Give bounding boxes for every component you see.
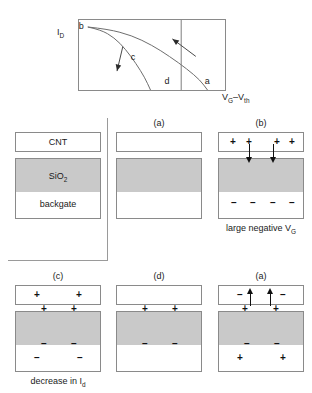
panel-b-top-oxide-layer bbox=[218, 158, 304, 192]
panel-c-bottom-title: (c) bbox=[15, 272, 101, 281]
panel-a-bottom-arrow-up-1 bbox=[270, 293, 271, 306]
panel-d-bottom-charge-plus-0: + bbox=[142, 304, 148, 314]
panel-b-top-charge-plus-0: + bbox=[230, 137, 236, 147]
panel-b-top-charge-minus-5: – bbox=[250, 198, 256, 208]
panel-a-top-oxide-layer bbox=[116, 158, 202, 192]
panel-c-bottom-charge-plus-2: + bbox=[41, 304, 47, 314]
legend-oxide-label: SiO2 bbox=[15, 172, 101, 183]
panel-b-top-charge-minus-7: – bbox=[289, 198, 295, 208]
panel-c-bottom: (c)++++––––decrease in Id bbox=[15, 285, 101, 372]
panel-c-bottom-charge-minus-5: – bbox=[71, 339, 77, 349]
panel-a-bottom-oxide-layer bbox=[218, 311, 304, 345]
panel-b-top-charge-plus-2: + bbox=[274, 137, 280, 147]
panel-d-bottom: (d)++–– bbox=[116, 285, 202, 372]
x-axis-label-sub-th: th bbox=[244, 97, 249, 104]
curve-label-a: a bbox=[205, 77, 210, 86]
layer-stack-legend: CNT SiO2 backgate bbox=[15, 132, 101, 219]
panel-a-bottom: (a)––++––++ bbox=[218, 285, 304, 372]
panel-b-top-charge-plus-3: + bbox=[289, 137, 295, 147]
curve-group bbox=[88, 20, 208, 90]
panel-a-top-backgate-layer bbox=[116, 192, 202, 219]
arrow-upper-head bbox=[172, 39, 179, 45]
panel-a-bottom-charge-plus-2: + bbox=[242, 304, 248, 314]
panel-a-bottom-charge-plus-3: + bbox=[273, 304, 279, 314]
curve-label-b: b bbox=[79, 22, 84, 31]
panel-b-top-arrow-down-1 bbox=[273, 144, 274, 158]
panel-a-bottom-backgate-layer bbox=[218, 345, 304, 372]
panel-b-top-charge-minus-6: – bbox=[270, 198, 276, 208]
panel-c-bottom-charge-plus-1: + bbox=[76, 290, 82, 300]
chart-y-axis-label: ID bbox=[57, 27, 64, 39]
panel-d-bottom-charge-plus-1: + bbox=[172, 304, 178, 314]
panel-c-bottom-charge-minus-6: – bbox=[34, 353, 40, 363]
panel-c-bottom-caption-text: decrease in I bbox=[30, 376, 82, 386]
panel-b-top-charge-minus-4: – bbox=[231, 198, 237, 208]
chart-x-axis-label: VG–Vth bbox=[222, 92, 250, 104]
curve-inner-sweep-to-d bbox=[88, 27, 151, 90]
panel-d-bottom-charge-minus-2: – bbox=[142, 339, 148, 349]
panel-a-top-cnt-layer bbox=[116, 132, 202, 152]
panel-a-bottom-title: (a) bbox=[218, 272, 304, 281]
panel-b-top: (b)++++––––large negative VG bbox=[218, 132, 304, 219]
panel-c-bottom-cnt-layer bbox=[15, 285, 101, 305]
legend-oxide-label-sub: 2 bbox=[64, 176, 68, 183]
chart-curves bbox=[79, 20, 225, 90]
legend-backgate-label: backgate bbox=[15, 200, 101, 209]
panel-a-top: (a) bbox=[116, 132, 202, 219]
panel-d-bottom-charge-minus-3: – bbox=[172, 339, 178, 349]
panel-a-bottom-arrow-up-0 bbox=[250, 293, 251, 306]
panel-c-bottom-charge-minus-7: – bbox=[77, 353, 83, 363]
panel-a-top-title: (a) bbox=[116, 119, 202, 128]
curve-label-c: c bbox=[131, 53, 136, 62]
chart-plot-area: b c d a bbox=[78, 19, 226, 91]
panel-c-bottom-oxide-layer bbox=[15, 311, 101, 345]
panel-b-top-caption: large negative VG bbox=[218, 224, 304, 235]
legend-oxide-label-main: SiO bbox=[49, 171, 64, 181]
legend-cnt-label: CNT bbox=[15, 138, 101, 147]
panel-c-bottom-caption: decrease in Id bbox=[15, 377, 101, 388]
panel-b-top-arrow-down-0 bbox=[249, 144, 250, 158]
curve-label-d: d bbox=[165, 77, 170, 86]
panel-c-bottom-caption-subscript: d bbox=[82, 381, 86, 388]
panel-c-bottom-charge-plus-0: + bbox=[34, 290, 40, 300]
panel-b-top-caption-text: large negative V bbox=[226, 223, 291, 233]
figure-root: ID b c d a VG–Vth bbox=[0, 0, 312, 393]
panel-d-bottom-backgate-layer bbox=[116, 345, 202, 372]
panel-a-bottom-charge-minus-5: – bbox=[274, 339, 280, 349]
panel-b-top-caption-subscript: G bbox=[291, 228, 296, 235]
panel-a-bottom-charge-plus-7: + bbox=[280, 353, 286, 363]
id-vs-vg-chart: ID b c d a VG–Vth bbox=[0, 0, 312, 112]
panel-d-bottom-cnt-layer bbox=[116, 285, 202, 305]
panel-b-top-title: (b) bbox=[218, 119, 304, 128]
panel-c-bottom-backgate-layer bbox=[15, 345, 101, 372]
panel-c-bottom-charge-plus-3: + bbox=[71, 304, 77, 314]
panel-d-bottom-title: (d) bbox=[116, 272, 202, 281]
panel-a-bottom-charge-minus-1: – bbox=[280, 290, 286, 300]
panel-a-bottom-charge-minus-0: – bbox=[237, 290, 243, 300]
panel-a-bottom-charge-minus-4: – bbox=[244, 339, 250, 349]
arrow-lower-head bbox=[116, 64, 122, 71]
panel-a-bottom-charge-plus-6: + bbox=[237, 353, 243, 363]
y-axis-label-sub: D bbox=[60, 32, 65, 39]
panel-a-bottom-cnt-layer bbox=[218, 285, 304, 305]
curve-outer-sweep-to-a bbox=[88, 27, 208, 90]
panel-c-bottom-charge-minus-4: – bbox=[41, 339, 47, 349]
panel-d-bottom-oxide-layer bbox=[116, 311, 202, 345]
